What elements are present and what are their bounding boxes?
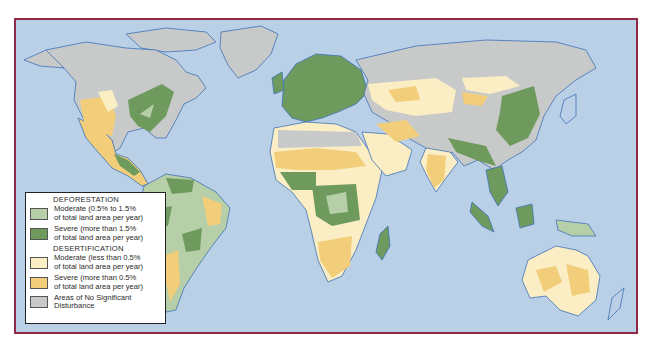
southeast-asia xyxy=(486,166,508,206)
japan xyxy=(560,94,576,124)
madagascar xyxy=(376,226,390,260)
swatch-no-disturbance xyxy=(30,296,48,308)
map-legend: DEFORESTATION Moderate (0.5% to 1.5% of … xyxy=(25,192,166,324)
legend-item-deforestation-severe: Severe (more than 1.5% of total land are… xyxy=(30,225,161,242)
map-frame: DEFORESTATION Moderate (0.5% to 1.5% of … xyxy=(14,18,638,334)
arctic-islands xyxy=(126,28,216,52)
legend-item-deforestation-moderate: Moderate (0.5% to 1.5% of total land are… xyxy=(30,205,161,222)
new-guinea xyxy=(556,220,596,236)
legend-deforestation-heading: DEFORESTATION xyxy=(53,196,161,204)
legend-desertification-heading: DESERTIFICATION xyxy=(53,245,161,253)
north-america xyxy=(46,42,206,152)
sumatra xyxy=(470,202,494,232)
uk xyxy=(272,72,284,94)
legend-label: of total land area per year) xyxy=(54,263,143,271)
legend-label: of total land area per year) xyxy=(54,214,143,222)
legend-item-desertification-moderate: Moderate (less than 0.5% of total land a… xyxy=(30,254,161,271)
swatch-desertification-moderate xyxy=(30,257,48,269)
legend-label: Disturbance xyxy=(54,302,131,310)
legend-label: of total land area per year) xyxy=(54,283,143,291)
india-desert xyxy=(426,154,446,188)
swatch-deforestation-moderate xyxy=(30,208,48,220)
borneo xyxy=(516,204,534,228)
legend-label: of total land area per year) xyxy=(54,234,143,242)
legend-item-desertification-severe: Severe (more than 0.5% of total land are… xyxy=(30,274,161,291)
europe xyxy=(282,54,368,122)
new-zealand xyxy=(608,288,624,320)
sahara-none xyxy=(278,130,362,148)
swatch-desertification-severe xyxy=(30,277,48,289)
swatch-deforestation-severe xyxy=(30,228,48,240)
legend-item-no-disturbance: Areas of No Significant Disturbance xyxy=(30,294,161,311)
greenland xyxy=(220,26,278,78)
